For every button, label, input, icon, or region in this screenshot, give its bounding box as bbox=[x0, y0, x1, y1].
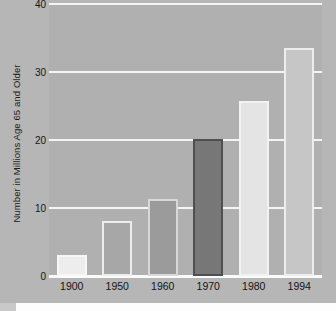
bar-1950 bbox=[102, 221, 132, 276]
bar-1970 bbox=[193, 139, 223, 276]
plot-area bbox=[49, 4, 322, 276]
x-tick-label-1994: 1994 bbox=[288, 280, 311, 292]
y-tick-label-20: 20 bbox=[24, 135, 46, 146]
figure-bottom-margin bbox=[0, 303, 336, 311]
bar-1994 bbox=[284, 48, 314, 276]
x-tick-label-1960: 1960 bbox=[151, 280, 174, 292]
y-tick-label-30: 30 bbox=[24, 67, 46, 78]
chart-plot-wrapper: Number in Millions Age 65 and Older 0102… bbox=[0, 0, 336, 303]
bar-1900 bbox=[57, 255, 87, 276]
y-axis-tick-labels: 010203040 bbox=[24, 0, 46, 303]
chart-figure: Number in Millions Age 65 and Older 0102… bbox=[0, 0, 336, 311]
x-tick-label-1950: 1950 bbox=[106, 280, 129, 292]
figure-bottom-left-corner bbox=[0, 303, 16, 311]
y-tick-label-10: 10 bbox=[24, 203, 46, 214]
x-axis-tick-labels: 190019501960197019801994 bbox=[49, 280, 322, 300]
bar-series bbox=[49, 4, 322, 276]
y-axis-title: Number in Millions Age 65 and Older bbox=[11, 44, 22, 244]
bar-1960 bbox=[148, 199, 178, 276]
bar-1980 bbox=[239, 101, 269, 276]
y-tick-label-40: 40 bbox=[24, 0, 46, 10]
x-tick-label-1970: 1970 bbox=[197, 280, 220, 292]
x-tick-label-1980: 1980 bbox=[242, 280, 265, 292]
y-tick-label-0: 0 bbox=[24, 271, 46, 282]
x-tick-label-1900: 1900 bbox=[60, 280, 83, 292]
